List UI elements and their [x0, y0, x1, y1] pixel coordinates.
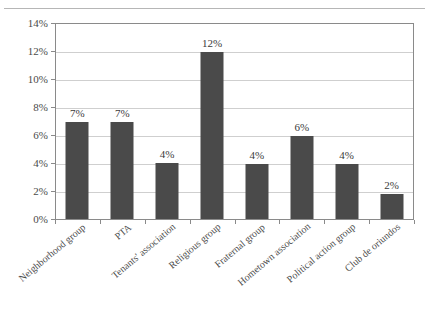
y-axis-tick-label: 8% — [8, 102, 48, 113]
bar-slot: 6% — [279, 23, 324, 219]
title-divider-rule — [4, 8, 425, 9]
bar-value-label: 4% — [250, 150, 265, 161]
bar[interactable] — [335, 164, 358, 219]
y-axis-tick-label: 14% — [8, 18, 48, 29]
bar[interactable] — [290, 136, 313, 219]
bar-slot: 7% — [100, 23, 145, 219]
y-axis-tick-label: 6% — [8, 130, 48, 141]
bar-value-label: 7% — [115, 108, 130, 119]
y-axis-tick-label: 4% — [8, 158, 48, 169]
bar-slot: 4% — [324, 23, 369, 219]
bar-chart: 0%2%4%6%8%10%12%14% 7%7%4%12%4%6%4%2% Ne… — [0, 0, 429, 318]
x-axis-category-label: Neighborhood group — [17, 224, 87, 284]
bar[interactable] — [111, 122, 134, 219]
y-axis-tick-label: 10% — [8, 74, 48, 85]
x-axis-labels: Neighborhood groupPTATenants' associatio… — [0, 224, 429, 318]
bars-group: 7%7%4%12%4%6%4%2% — [55, 23, 414, 219]
cutoff-title-strip — [0, 0, 429, 11]
bar-slot: 12% — [190, 23, 235, 219]
bar-slot: 7% — [55, 23, 100, 219]
bar-value-label: 6% — [294, 122, 309, 133]
bar-value-label: 2% — [384, 180, 399, 191]
bar[interactable] — [156, 163, 179, 219]
bar-value-label: 4% — [160, 149, 175, 160]
bar-slot: 4% — [145, 23, 190, 219]
bar[interactable] — [380, 194, 403, 219]
y-axis-tick-label: 12% — [8, 46, 48, 57]
bar-slot: 2% — [369, 23, 414, 219]
bar-value-label: 4% — [339, 150, 354, 161]
bar-value-label: 7% — [70, 108, 85, 119]
bar[interactable] — [201, 52, 224, 219]
y-axis-tick-label: 2% — [8, 186, 48, 197]
x-axis-category-label: PTA — [113, 224, 133, 241]
bar-value-label: 12% — [202, 38, 222, 49]
bar[interactable] — [66, 122, 89, 219]
bar[interactable] — [245, 164, 268, 219]
bar-slot: 4% — [235, 23, 280, 219]
